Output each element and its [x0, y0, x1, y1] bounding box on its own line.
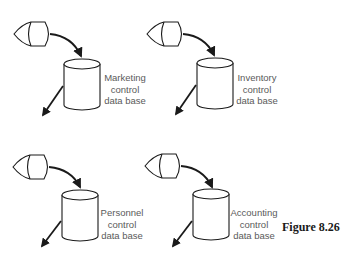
- arrow-icon: [176, 85, 196, 114]
- arrow-icon: [50, 34, 81, 56]
- arrow-icon: [49, 167, 80, 187]
- display-terminal-icon: [13, 155, 48, 179]
- database-cylinder-icon: [197, 58, 233, 109]
- label-line: Accounting: [229, 207, 279, 219]
- arrow-icon: [173, 221, 192, 246]
- figure-caption: Figure 8.26: [282, 220, 340, 235]
- label-line: control: [99, 219, 145, 231]
- db-label-marketing: Marketing control data base: [101, 72, 149, 107]
- label-line: control: [229, 219, 279, 231]
- label-line: Inventory: [234, 72, 280, 84]
- label-line: Marketing: [101, 72, 149, 84]
- label-line: control: [101, 84, 149, 96]
- display-terminal-icon: [145, 154, 180, 178]
- display-terminal-icon: [147, 22, 182, 46]
- arrow-icon: [183, 34, 214, 55]
- label-line: control: [234, 84, 280, 96]
- arrow-icon: [42, 221, 61, 246]
- database-cylinder-icon: [193, 189, 229, 240]
- arrow-icon: [43, 86, 63, 115]
- database-cylinder-icon: [62, 190, 98, 241]
- label-line: data base: [229, 230, 279, 242]
- label-line: Personnel: [99, 207, 145, 219]
- database-cylinder-icon: [64, 59, 100, 110]
- arrow-icon: [181, 166, 212, 187]
- label-line: data base: [99, 230, 145, 242]
- group-marketing: [14, 22, 100, 115]
- label-line: data base: [234, 95, 280, 107]
- db-label-personnel: Personnel control data base: [99, 207, 145, 242]
- display-terminal-icon: [14, 22, 49, 46]
- group-personnel: [13, 155, 98, 246]
- label-line: data base: [101, 95, 149, 107]
- db-label-inventory: Inventory control data base: [234, 72, 280, 107]
- group-accounting: [145, 154, 229, 246]
- db-label-accounting: Accounting control data base: [229, 207, 279, 242]
- group-inventory: [147, 22, 233, 114]
